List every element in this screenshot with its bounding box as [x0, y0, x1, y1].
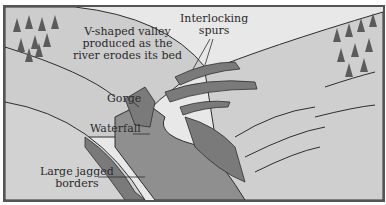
label-interlocking-spurs: Interlocking spurs	[180, 13, 248, 37]
label-gorge: Gorge	[107, 93, 141, 105]
diagram-frame: V-shaped valley produced as the river er…	[3, 5, 385, 202]
label-jagged-borders: Large jagged borders	[40, 166, 114, 190]
label-v-shaped-valley: V-shaped valley produced as the river er…	[73, 26, 182, 62]
label-waterfall: Waterfall	[90, 123, 141, 135]
